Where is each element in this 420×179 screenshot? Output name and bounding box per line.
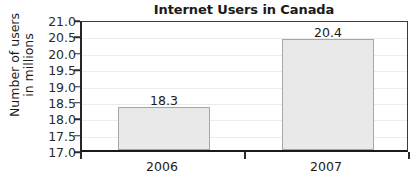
- y-tick-label: 19.5: [36, 63, 76, 78]
- bar-value-label: 18.3: [118, 93, 210, 108]
- plot-area: 18.320.4: [80, 21, 408, 152]
- bar-chart: Internet Users in Canada Number of users…: [0, 0, 420, 179]
- y-tick-label: 20.0: [36, 46, 76, 61]
- x-tick-label: 2007: [244, 159, 408, 174]
- y-tick-label: 18.0: [36, 112, 76, 127]
- bar: [282, 39, 374, 150]
- y-tick-label: 17.0: [36, 145, 76, 160]
- y-tick-label: 17.5: [36, 128, 76, 143]
- y-tick-label: 19.0: [36, 79, 76, 94]
- bar-value-label: 20.4: [282, 25, 374, 40]
- y-tick-label: 21.0: [36, 14, 76, 29]
- plot-inner: 18.320.4: [82, 22, 407, 150]
- x-tick-mark: [244, 152, 246, 159]
- y-axis-title-line-1: Number of users: [8, 13, 22, 117]
- bar: [118, 107, 210, 150]
- x-tick-mark: [408, 152, 410, 159]
- y-axis-title-line-2: in millions: [22, 33, 36, 97]
- chart-title: Internet Users in Canada: [80, 2, 408, 17]
- y-tick-label: 18.5: [36, 95, 76, 110]
- x-tick-mark: [80, 152, 82, 159]
- x-tick-label: 2006: [80, 159, 244, 174]
- y-tick-label: 20.5: [36, 30, 76, 45]
